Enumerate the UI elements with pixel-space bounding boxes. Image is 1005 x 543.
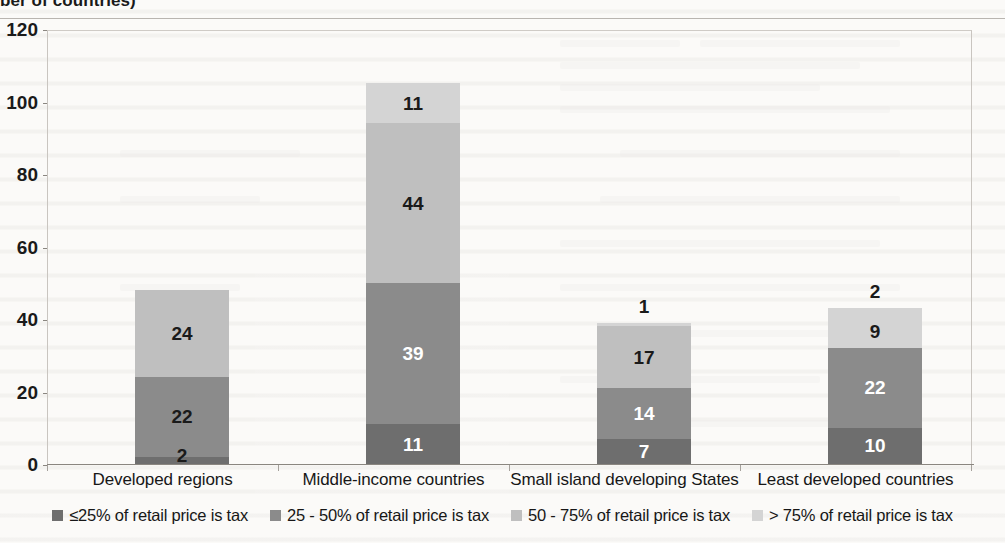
legend-swatch-icon (511, 510, 522, 521)
bar-segment-25-50[interactable]: 22 (828, 348, 922, 428)
bar-segment-lte-25[interactable]: 7 (597, 439, 691, 464)
legend-label: 25 - 50% of retail price is tax (287, 506, 489, 525)
bar-segment-value: 39 (402, 344, 423, 363)
x-axis-label-small-island-developing-states: Small island developing States (509, 470, 740, 490)
bar-segment-25-50[interactable]: 39 (366, 283, 460, 424)
bar-segment-value: 11 (403, 94, 423, 113)
legend-label: > 75% of retail price is tax (769, 506, 953, 525)
y-tick-label-20: 20 (0, 382, 47, 404)
bar-segment-gt-75[interactable] (828, 308, 922, 315)
legend-item-gt-75[interactable]: > 75% of retail price is tax (752, 506, 953, 525)
y-tick-label-40: 40 (0, 309, 47, 331)
bar-segment-lte-25[interactable]: 2 (135, 457, 229, 464)
bar-developed-regions[interactable]: 24 22 2 (135, 290, 229, 464)
x-tick-mark-right (971, 465, 972, 471)
y-tick-label-0: 0 (0, 454, 47, 476)
y-tick-label-80: 80 (0, 164, 47, 186)
bar-least-developed-countries[interactable]: 2 9 22 10 (828, 308, 922, 464)
bar-segment-value: 17 (633, 348, 654, 367)
bar-segment-value: 2 (177, 446, 188, 465)
bar-middle-income-countries[interactable]: 11 44 39 11 (366, 83, 460, 464)
bar-segment-lte-25[interactable]: 10 (828, 428, 922, 464)
legend-label: ≤25% of retail price is tax (69, 506, 248, 525)
y-tick-label-100: 100 (0, 92, 47, 114)
bar-segment-value: 7 (639, 442, 650, 461)
y-tick-label-60: 60 (0, 237, 47, 259)
bar-segment-lte-25[interactable]: 11 (366, 424, 460, 464)
bar-segment-value: 24 (171, 324, 192, 343)
bar-segment-50-75[interactable]: 17 (597, 326, 691, 388)
bar-segment-value: 22 (171, 407, 192, 426)
page-title-strip: ber of countries) (0, 0, 1005, 16)
legend-item-lte-25[interactable]: ≤25% of retail price is tax (52, 506, 248, 525)
bar-segment-value-floating: 1 (597, 297, 691, 316)
bar-segment-value: 9 (870, 322, 881, 341)
legend-item-25-50[interactable]: 25 - 50% of retail price is tax (270, 506, 489, 525)
x-axis-label-least-developed-countries: Least developed countries (740, 470, 971, 490)
bar-segment-value: 11 (403, 435, 423, 454)
x-axis-label-developed-regions: Developed regions (47, 470, 278, 490)
chart-legend: ≤25% of retail price is tax 25 - 50% of … (0, 506, 1005, 525)
legend-swatch-icon (270, 510, 281, 521)
y-tick-label-120: 120 (0, 19, 47, 41)
legend-label: 50 - 75% of retail price is tax (528, 506, 730, 525)
page-title: ber of countries) (0, 0, 136, 11)
bar-segment-gt-75[interactable]: 11 (366, 83, 460, 123)
x-axis-label-middle-income-countries: Middle-income countries (278, 470, 509, 490)
bar-segment-value-floating: 2 (828, 282, 922, 301)
bar-small-island-developing-states[interactable]: 1 17 14 7 (597, 323, 691, 464)
bar-segment-value: 22 (864, 378, 885, 397)
legend-swatch-icon (752, 510, 763, 521)
title-divider (0, 18, 1005, 19)
bar-segment-25-50[interactable]: 14 (597, 388, 691, 439)
bar-segment-50-75[interactable]: 24 (135, 290, 229, 377)
legend-item-50-75[interactable]: 50 - 75% of retail price is tax (511, 506, 730, 525)
bar-segment-value: 10 (864, 436, 885, 455)
bar-segment-value: 14 (633, 404, 654, 423)
plot-area: 24 22 2 11 44 39 11 1 (47, 30, 972, 465)
bar-segment-50-75[interactable]: 44 (366, 123, 460, 283)
legend-swatch-icon (52, 510, 63, 521)
bar-segment-value: 44 (402, 194, 423, 213)
bar-segment-50-75[interactable]: 9 (828, 315, 922, 348)
